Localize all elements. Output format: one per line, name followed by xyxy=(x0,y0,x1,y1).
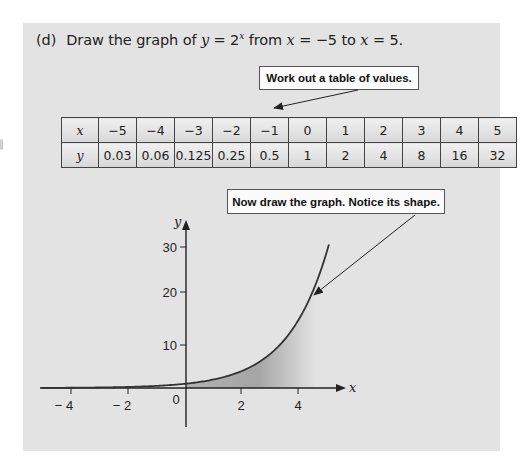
y-tick-label: 20 xyxy=(163,285,177,300)
callout-graph-arrow xyxy=(314,215,415,295)
x-tick-label: 4 xyxy=(294,398,301,413)
callout-table-arrow xyxy=(274,90,358,108)
x-ticks: − 4 − 2 2 4 0 xyxy=(55,388,302,413)
y-axis-arrow-icon xyxy=(182,220,190,230)
x-axis-arrow-icon xyxy=(336,384,346,392)
x-tick-label: − 2 xyxy=(113,398,131,413)
y-tick-label: 10 xyxy=(163,338,177,353)
exponential-graph: x y − 4 − 2 2 4 0 10 20 30 xyxy=(0,0,529,462)
y-tick-label: 30 xyxy=(163,240,177,255)
shaded-area xyxy=(186,283,316,388)
origin-label: 0 xyxy=(172,392,179,407)
x-axis-label: x xyxy=(349,380,357,395)
x-tick-label: − 4 xyxy=(55,398,73,413)
callout-draw-graph: Now draw the graph. Notice its shape. xyxy=(227,189,445,214)
x-tick-label: 2 xyxy=(237,398,244,413)
y-axis-label: y xyxy=(173,214,182,229)
y-ticks: 10 20 30 xyxy=(163,240,186,353)
